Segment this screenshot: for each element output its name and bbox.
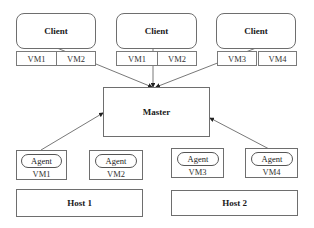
client-label-2: Client — [116, 13, 197, 49]
client-label-3: Client — [216, 13, 296, 49]
agent-pill-2: Agent — [95, 154, 137, 168]
host-label-1: Host 1 — [16, 189, 143, 217]
agent-pill-1: Agent — [21, 154, 62, 168]
agent-vm-label-4: VM4 — [245, 166, 298, 178]
client-3-vm-cell-2: VM4 — [258, 51, 297, 66]
master-label: Master — [103, 87, 210, 137]
client-label-1: Client — [16, 13, 96, 49]
client-1-vm-cell-2: VM2 — [56, 51, 96, 66]
agent-vm-label-2: VM2 — [89, 168, 143, 180]
client-3-vm-cell-1: VM3 — [217, 51, 257, 66]
arrow-agent-vm4-master — [210, 118, 271, 150]
agent-pill-4: Agent — [251, 152, 293, 166]
agent-vm-label-1: VM1 — [16, 168, 67, 180]
client-2-vm-cell-1: VM1 — [116, 51, 158, 66]
host-label-2: Host 2 — [171, 190, 298, 216]
agent-pill-3: Agent — [177, 152, 219, 166]
agent-vm-label-3: VM3 — [171, 166, 224, 178]
arrow-agent-vm1-master — [41, 113, 103, 150]
client-1-vm-cell-1: VM1 — [16, 51, 57, 66]
client-2-vm-cell-2: VM2 — [157, 51, 197, 66]
